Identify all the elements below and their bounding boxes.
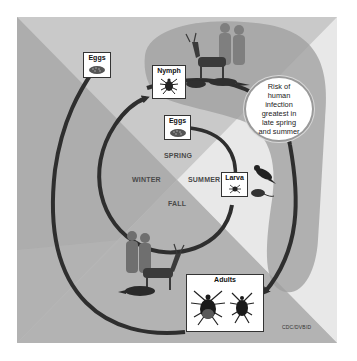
adults-label: Adults — [187, 276, 263, 283]
nymph-label: Nymph — [153, 67, 185, 74]
tick-life-cycle-diagram: Eggs Nymph Eggs Larva — [0, 0, 357, 361]
season-spring-label: SPRING — [164, 152, 192, 159]
eggs-cluster-icon — [169, 128, 187, 138]
eggs-label-top: Eggs — [84, 54, 110, 61]
nymph-tick-icon — [158, 74, 180, 96]
eggs-label-inner: Eggs — [165, 117, 190, 124]
season-summer-label: SUMMER — [188, 176, 220, 183]
nymph-stage: Nymph — [152, 65, 186, 99]
eggs-cluster-icon — [88, 65, 106, 75]
season-fall-label: FALL — [168, 200, 186, 207]
eggs-stage-inner: Eggs — [164, 115, 191, 140]
adult-ticks-icon — [188, 283, 262, 327]
eggs-stage-top: Eggs — [83, 52, 111, 78]
diagram-canvas — [0, 0, 357, 361]
larva-label: Larva — [222, 174, 247, 181]
larva-tick-icon — [229, 183, 241, 195]
risk-callout-text: Risk of human infection greatest in late… — [258, 82, 299, 136]
adults-stage: Adults — [186, 274, 264, 332]
risk-callout: Risk of human infection greatest in late… — [244, 76, 314, 142]
larva-stage: Larva — [221, 172, 248, 197]
season-winter-label: WINTER — [132, 176, 161, 183]
credit-label: CDC/DVBID — [282, 324, 311, 330]
